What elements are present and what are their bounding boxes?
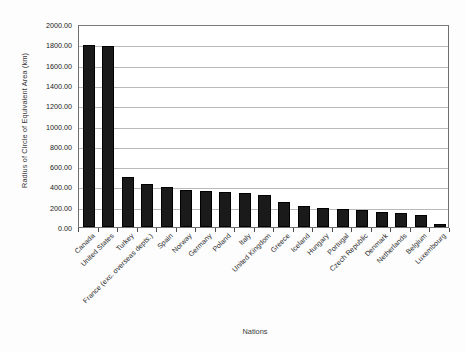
y-axis-tick-label: 800.00 — [8, 143, 72, 152]
bar — [376, 212, 388, 227]
bar — [258, 195, 270, 227]
y-axis-tick-label: 400.00 — [8, 183, 72, 192]
bar — [356, 210, 368, 227]
bar — [122, 177, 134, 227]
plot-area — [78, 25, 449, 228]
bar — [239, 193, 251, 227]
x-axis-title: Nations — [0, 327, 466, 336]
bar — [161, 187, 173, 227]
x-axis-category-label-text: Italy — [238, 232, 253, 247]
bars-container — [79, 26, 448, 227]
bar — [434, 224, 446, 227]
bar — [180, 190, 192, 227]
bar — [298, 206, 310, 227]
bar — [141, 184, 153, 227]
bar — [219, 192, 231, 227]
y-axis-tick-label: 1800.00 — [8, 41, 72, 50]
bar — [317, 208, 329, 227]
x-axis-category-label-text: Greece — [269, 232, 291, 254]
bar — [83, 45, 95, 227]
x-axis-category-label-text: Poland — [212, 232, 233, 253]
bar — [278, 202, 290, 227]
x-axis-category-label: Poland — [212, 232, 233, 253]
x-axis-category-labels: CanadaUnited StatesTurkeyFrance (exc. ov… — [0, 232, 466, 332]
bar-chart: Radius of Circle of Equivalent Area (km)… — [0, 0, 466, 352]
y-axis-tick-label: 1200.00 — [8, 102, 72, 111]
y-axis-tick-label: 1400.00 — [8, 82, 72, 91]
bar — [415, 215, 427, 227]
bar — [337, 209, 349, 227]
y-axis-tick-label: 1000.00 — [8, 123, 72, 132]
y-axis-tick-label: 1600.00 — [8, 62, 72, 71]
y-axis-tick-label: 2000.00 — [8, 21, 72, 30]
y-axis-title: Radius of Circle of Equivalent Area (km) — [20, 11, 29, 231]
bar — [200, 191, 212, 227]
bar — [102, 46, 114, 227]
y-axis-tick-label: 600.00 — [8, 163, 72, 172]
x-axis-category-label: Greece — [269, 232, 291, 254]
x-axis-category-label: Italy — [238, 232, 253, 247]
y-axis-tick-label: 200.00 — [8, 204, 72, 213]
bar — [395, 213, 407, 227]
